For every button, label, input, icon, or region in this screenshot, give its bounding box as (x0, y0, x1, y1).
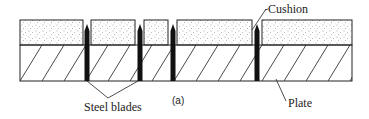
plate-label: Plate (288, 97, 312, 109)
cushion-label: Cushion (268, 3, 308, 15)
steel-blade (171, 24, 176, 81)
steel-blades-leader (87, 81, 138, 98)
plate (20, 45, 352, 81)
cushion-block (91, 20, 135, 45)
steel-blade (85, 24, 90, 81)
steel-blade (138, 24, 143, 81)
cushion-layer (20, 20, 352, 45)
cushion-block (262, 20, 352, 45)
cushion-block (144, 20, 168, 45)
cushion-block (177, 20, 252, 45)
steel-rule-die-diagram (0, 0, 369, 119)
plate-leader (276, 79, 286, 101)
cushion-block (20, 20, 83, 45)
steel-blades-label: Steel blades (84, 101, 142, 113)
figure-label: (a) (172, 96, 184, 106)
steel-blade (255, 24, 260, 81)
